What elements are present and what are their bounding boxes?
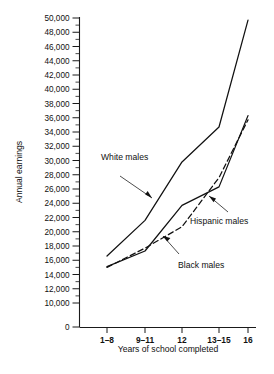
annotation-white-males: White males bbox=[101, 152, 152, 198]
line-chart-svg: 010,00012,00014,00016,00018,00020,00022,… bbox=[0, 0, 274, 374]
y-tick-labels: 010,00012,00014,00016,00018,00020,00022,… bbox=[44, 14, 69, 332]
y-tick-label: 30,000 bbox=[44, 157, 69, 166]
white-males-leader-arrow bbox=[145, 191, 152, 198]
y-tick-label: 26,000 bbox=[44, 185, 69, 194]
y-tick-label: 48,000 bbox=[44, 28, 69, 37]
x-axis-title: Years of school completed bbox=[118, 344, 219, 354]
y-tick-label: 34,000 bbox=[44, 128, 69, 137]
chart-figure: 010,00012,00014,00016,00018,00020,00022,… bbox=[0, 0, 274, 374]
y-tick-label: 44,000 bbox=[44, 57, 69, 66]
y-tick-label: 16,000 bbox=[44, 256, 69, 265]
x-tick-label: 16 bbox=[243, 335, 253, 345]
y-tick-label: 14,000 bbox=[44, 271, 69, 280]
y-tick-label: 40,000 bbox=[44, 85, 69, 94]
series-lines bbox=[107, 20, 248, 267]
y-tick-label: 28,000 bbox=[44, 171, 69, 180]
white-males-label: White males bbox=[101, 152, 148, 162]
y-axis-title: Annual earnings bbox=[14, 141, 24, 203]
y-tick-marks bbox=[73, 18, 80, 327]
y-tick-label: 42,000 bbox=[44, 71, 69, 80]
y-tick-label: 20,000 bbox=[44, 228, 69, 237]
series-line-black-males bbox=[107, 120, 248, 267]
series-line-hispanic-males bbox=[107, 116, 248, 267]
x-tick-marks bbox=[107, 328, 248, 334]
annotation-hispanic-males: Hispanic males bbox=[190, 196, 248, 226]
y-tick-label: 38,000 bbox=[44, 100, 69, 109]
y-axis-group: 010,00012,00014,00016,00018,00020,00022,… bbox=[44, 14, 79, 332]
x-tick-label: 1–8 bbox=[100, 335, 114, 345]
black-males-label: Black males bbox=[178, 260, 224, 270]
y-tick-label: 24,000 bbox=[44, 199, 69, 208]
annotation-black-males: Black males bbox=[163, 236, 224, 270]
y-tick-label: 12,000 bbox=[44, 285, 69, 294]
y-tick-label: 18,000 bbox=[44, 242, 69, 251]
y-tick-label: 36,000 bbox=[44, 114, 69, 123]
x-axis-group: 1–89–111213–1516 bbox=[80, 328, 257, 346]
y-tick-label: 0 bbox=[65, 323, 70, 332]
black-males-leader-arrow bbox=[163, 236, 170, 242]
hispanic-males-label: Hispanic males bbox=[190, 216, 248, 226]
y-tick-label: 22,000 bbox=[44, 214, 69, 223]
y-tick-label: 50,000 bbox=[44, 14, 69, 23]
y-tick-label: 46,000 bbox=[44, 43, 69, 52]
y-tick-label: 10,000 bbox=[44, 299, 69, 308]
y-tick-label: 32,000 bbox=[44, 142, 69, 151]
